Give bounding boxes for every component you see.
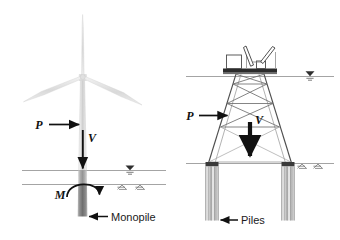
jacket-leg-outer-right (264, 74, 292, 163)
platform-deck-underside (223, 73, 277, 74)
right-soil-hatch-symbol (297, 164, 322, 168)
pile-group-left (206, 162, 219, 221)
jacket-brace-bay2-a (233, 84, 273, 104)
monopile-submerged-segment (78, 171, 87, 185)
crane-boom-left (244, 46, 254, 66)
crane-boom-right (261, 47, 275, 64)
monopile-panel: P V M Monopile (22, 15, 166, 223)
diagram-canvas: P V M Monopile (0, 0, 340, 240)
jacket-brace-bay1-a (236, 74, 267, 84)
jacket-leg-outer-left (209, 74, 237, 163)
rotor-hub (80, 74, 85, 79)
left-vertical-load-label: V (88, 131, 97, 145)
left-water-surface-symbol (126, 165, 135, 174)
platform-deck (223, 69, 277, 73)
left-moment-label: M (54, 188, 66, 202)
offshore-foundations-figure: P V M Monopile (0, 0, 340, 240)
turbine-blade-lower-right (83, 76, 142, 105)
piles-label: Piles (241, 214, 265, 226)
jacket-brace-bay1-b (233, 74, 264, 84)
pile-group-right (282, 162, 295, 221)
left-soil-hatch-symbol (117, 185, 144, 189)
turbine-blade-lower-left (24, 76, 83, 102)
jacket-brace-bay2-b (227, 84, 267, 104)
topside-module-left (227, 55, 242, 69)
right-vertical-load-label: V (255, 113, 264, 127)
jacket-brace-bay3-b (221, 104, 274, 128)
left-lateral-load-label: P (35, 118, 43, 132)
platform-topside (223, 46, 277, 74)
monopile-embedded-segment (78, 185, 88, 217)
monopile-label: Monopile (111, 211, 156, 223)
right-water-surface-symbol (306, 71, 315, 80)
right-lateral-load-label: P (186, 109, 194, 123)
jacket-panel: P V Piles (186, 46, 334, 226)
turbine-blade-up (82, 15, 85, 77)
jacket-leg-inner-left (215, 74, 241, 163)
